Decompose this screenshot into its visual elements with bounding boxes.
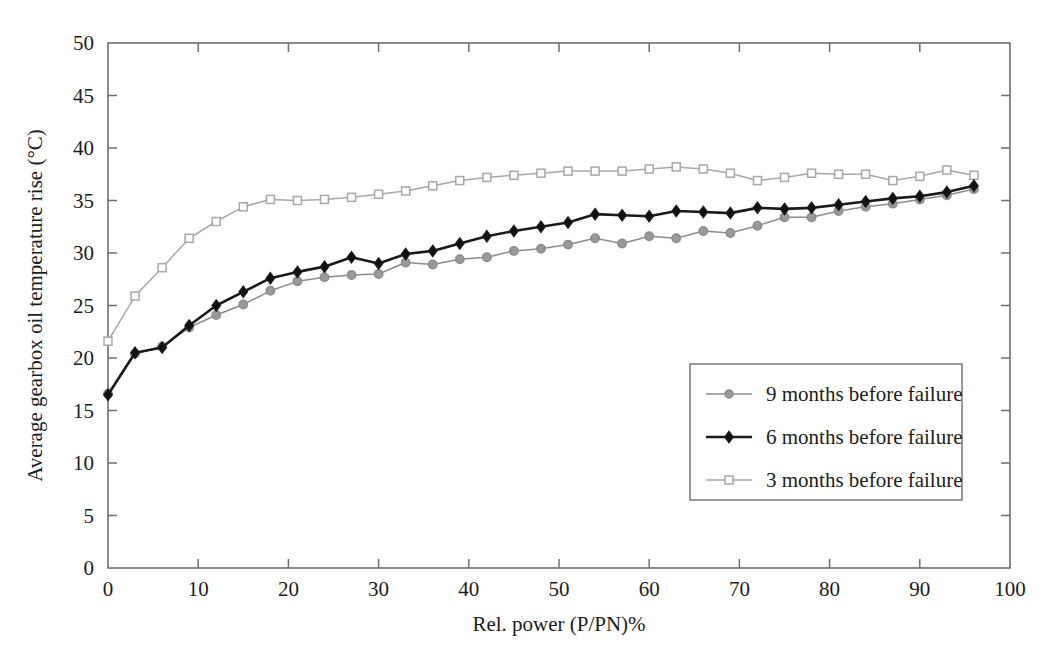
x-tick-label: 100 bbox=[994, 577, 1026, 601]
y-tick-label: 30 bbox=[73, 241, 94, 265]
marker-diamond bbox=[672, 205, 680, 216]
marker-circle bbox=[429, 260, 437, 268]
marker-diamond bbox=[293, 266, 301, 277]
marker-diamond bbox=[726, 207, 734, 218]
marker-circle bbox=[618, 239, 626, 247]
y-tick-label: 20 bbox=[73, 346, 94, 370]
x-tick-label: 0 bbox=[103, 577, 114, 601]
marker-diamond bbox=[645, 211, 653, 222]
marker-square bbox=[131, 292, 139, 300]
x-tick-label: 90 bbox=[909, 577, 930, 601]
x-tick-label: 30 bbox=[368, 577, 389, 601]
marker-circle bbox=[483, 253, 491, 261]
marker-square bbox=[591, 167, 599, 175]
marker-circle bbox=[456, 255, 464, 263]
chart-figure: 0510152025303540455001020304050607080901… bbox=[0, 0, 1050, 670]
series-line bbox=[108, 167, 974, 341]
marker-square bbox=[672, 163, 680, 171]
marker-diamond bbox=[347, 252, 355, 263]
marker-square bbox=[429, 182, 437, 190]
marker-circle bbox=[725, 390, 733, 398]
marker-diamond bbox=[780, 203, 788, 214]
marker-diamond bbox=[374, 258, 382, 269]
marker-square bbox=[699, 165, 707, 173]
marker-circle bbox=[510, 247, 518, 255]
x-tick-label: 80 bbox=[819, 577, 840, 601]
series-line bbox=[108, 189, 974, 394]
marker-square bbox=[239, 203, 247, 211]
y-tick-label: 10 bbox=[73, 451, 94, 475]
marker-square bbox=[266, 195, 274, 203]
marker-diamond bbox=[753, 202, 761, 213]
marker-diamond bbox=[239, 286, 247, 297]
chart-canvas: 0510152025303540455001020304050607080901… bbox=[0, 0, 1050, 670]
y-tick-label: 25 bbox=[73, 294, 94, 318]
marker-square bbox=[158, 264, 166, 272]
marker-circle bbox=[699, 227, 707, 235]
marker-square bbox=[375, 190, 383, 198]
marker-square bbox=[618, 167, 626, 175]
legend-label: 6 months before failure bbox=[766, 425, 963, 449]
x-tick-label: 10 bbox=[188, 577, 209, 601]
marker-diamond bbox=[564, 217, 572, 228]
marker-circle bbox=[239, 300, 247, 308]
marker-diamond bbox=[320, 261, 328, 272]
y-tick-label: 5 bbox=[84, 504, 95, 528]
x-tick-label: 40 bbox=[458, 577, 479, 601]
marker-diamond bbox=[212, 300, 220, 311]
y-tick-label: 35 bbox=[73, 189, 94, 213]
marker-square bbox=[645, 165, 653, 173]
marker-circle bbox=[645, 232, 653, 240]
marker-square bbox=[104, 337, 112, 345]
marker-square bbox=[564, 167, 572, 175]
marker-circle bbox=[753, 222, 761, 230]
marker-diamond bbox=[591, 208, 599, 219]
marker-square bbox=[889, 177, 897, 185]
marker-diamond bbox=[483, 231, 491, 242]
marker-square bbox=[537, 169, 545, 177]
marker-square bbox=[835, 170, 843, 178]
marker-diamond bbox=[456, 238, 464, 249]
series-3 bbox=[104, 163, 978, 345]
marker-square bbox=[510, 171, 518, 179]
marker-diamond bbox=[699, 206, 707, 217]
marker-diamond bbox=[537, 221, 545, 232]
marker-square bbox=[970, 171, 978, 179]
marker-circle bbox=[537, 245, 545, 253]
x-tick-label: 20 bbox=[278, 577, 299, 601]
x-axis-title: Rel. power (P/PN)% bbox=[472, 612, 645, 636]
y-tick-label: 50 bbox=[73, 31, 94, 55]
chart-legend[interactable]: 9 months before failure6 months before f… bbox=[690, 364, 963, 500]
marker-circle bbox=[726, 229, 734, 237]
marker-square bbox=[185, 234, 193, 242]
x-tick-label: 70 bbox=[729, 577, 750, 601]
marker-circle bbox=[672, 234, 680, 242]
marker-circle bbox=[320, 273, 328, 281]
marker-square bbox=[293, 197, 301, 205]
marker-diamond bbox=[510, 225, 518, 236]
y-tick-label: 40 bbox=[73, 136, 94, 160]
marker-square bbox=[916, 172, 924, 180]
marker-square bbox=[320, 195, 328, 203]
marker-square bbox=[212, 218, 220, 226]
marker-diamond bbox=[807, 202, 815, 213]
marker-square bbox=[808, 169, 816, 177]
marker-square bbox=[781, 173, 789, 181]
marker-circle bbox=[347, 271, 355, 279]
marker-square bbox=[862, 170, 870, 178]
axis-labels: 0510152025303540455001020304050607080901… bbox=[23, 31, 1026, 636]
marker-square bbox=[943, 166, 951, 174]
marker-diamond bbox=[429, 245, 437, 256]
marker-diamond bbox=[401, 248, 409, 259]
x-tick-label: 60 bbox=[639, 577, 660, 601]
marker-diamond bbox=[266, 273, 274, 284]
marker-circle bbox=[374, 270, 382, 278]
marker-square bbox=[725, 476, 733, 484]
marker-circle bbox=[266, 287, 274, 295]
marker-square bbox=[483, 173, 491, 181]
y-tick-label: 15 bbox=[73, 399, 94, 423]
marker-square bbox=[753, 177, 761, 185]
legend-label: 3 months before failure bbox=[766, 468, 963, 492]
x-tick-label: 50 bbox=[549, 577, 570, 601]
y-tick-label: 45 bbox=[73, 84, 94, 108]
